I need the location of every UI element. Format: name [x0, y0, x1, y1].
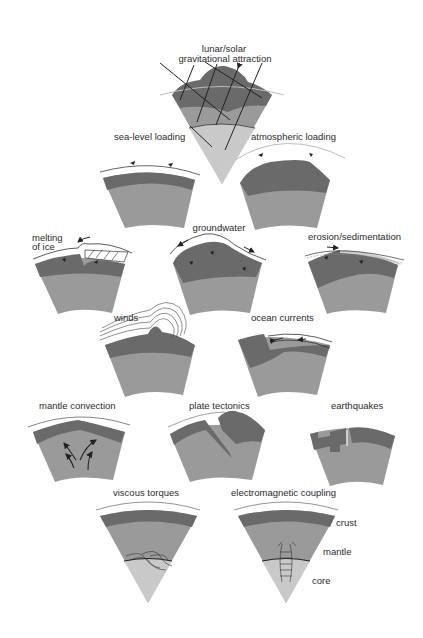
label-layer-mantle: mantle [323, 547, 352, 557]
label-plate-tectonics: plate tectonics [189, 401, 250, 411]
label-gravitational-line2: gravitational attraction [179, 54, 272, 64]
panel-ocean [238, 334, 332, 397]
panel-sea-level [100, 161, 200, 228]
panel-mantle-convection [28, 417, 130, 482]
label-erosion: erosion/sedimentation [308, 232, 401, 242]
label-em: electromagnetic coupling [231, 488, 336, 498]
label-layer-crust: crust [336, 518, 357, 528]
label-ocean: ocean currents [251, 313, 314, 323]
panel-atmospheric [235, 143, 345, 230]
label-layer-core: core [312, 576, 330, 586]
label-viscous: viscous torques [113, 488, 179, 498]
diagram-figure [0, 0, 423, 638]
panel-viscous [96, 502, 200, 603]
label-winds: winds [114, 313, 138, 323]
label-groundwater: groundwater [193, 223, 246, 233]
label-earthquakes: earthquakes [331, 401, 383, 411]
label-ice-line2: of ice [32, 242, 55, 252]
diagram-canvas: lunar/solar gravitational attraction sea… [0, 0, 423, 638]
label-mantle-convection: mantle convection [39, 401, 116, 411]
panel-earthquakes [310, 427, 395, 486]
panel-erosion [305, 247, 404, 314]
panel-plate-tectonics [168, 411, 265, 482]
panel-groundwater [170, 225, 266, 315]
label-sea-level: sea-level loading [114, 132, 185, 142]
label-atmospheric: atmospheric loading [251, 132, 336, 142]
